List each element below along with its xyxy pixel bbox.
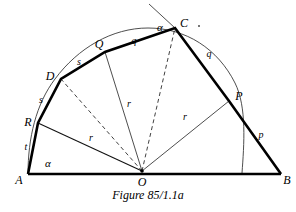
- figure-caption: Figure 85/1.1a: [0, 188, 296, 203]
- radius-segment-OR: [38, 123, 142, 171]
- segment-label-s-upper: s: [77, 57, 81, 67]
- vertex-label-d: D: [46, 70, 55, 82]
- angle-label-alpha-at-a: α: [45, 158, 51, 169]
- vertex-label-q: Q: [95, 38, 104, 50]
- segment-label-s-lower: s: [39, 95, 43, 105]
- angle-label-alpha-at-c: α: [157, 22, 163, 33]
- vertex-label-p: P: [235, 90, 242, 102]
- segment-label-t: t: [25, 142, 28, 152]
- vertex-label-o: O: [138, 176, 147, 188]
- radius-label-r-left: r: [89, 133, 93, 143]
- radius-label-r-right: r: [183, 112, 187, 122]
- figure-container: A B O C D P Q R t s s q q p r r r α α Fi…: [0, 0, 296, 212]
- scan-dot-artifact: [198, 25, 200, 27]
- vertex-label-a: A: [15, 174, 22, 186]
- vertex-label-c: C: [180, 17, 188, 29]
- geometry-diagram: [0, 0, 296, 212]
- radius-segment-OC-dashed: [142, 28, 175, 171]
- segment-label-q-left: q: [132, 36, 137, 46]
- segment-label-p: p: [259, 130, 264, 140]
- vertex-label-r: R: [24, 116, 31, 128]
- radius-segment-OD-dashed: [61, 79, 142, 171]
- radius-segment-OQ: [105, 52, 142, 171]
- segment-label-q-right: q: [207, 49, 212, 59]
- radius-label-r-middle: r: [127, 99, 131, 109]
- vertex-label-b: B: [283, 174, 290, 186]
- center-point-marker-o: [140, 169, 144, 173]
